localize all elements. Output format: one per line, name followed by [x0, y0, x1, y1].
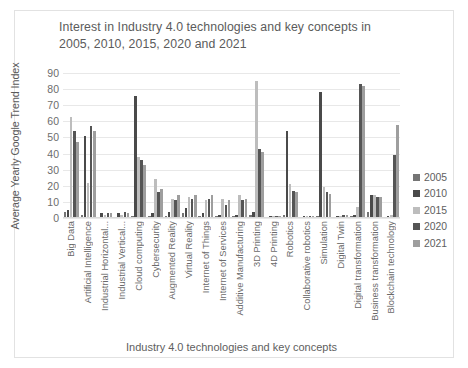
legend-item-label: 2015 [424, 205, 447, 216]
bar [228, 200, 231, 218]
bar-group [282, 73, 299, 218]
x-axis-tick-label: Internet of Things [198, 220, 215, 338]
x-axis-tick-label-text: Cloud computing [134, 221, 144, 291]
x-axis-tick-label-text: 3D Printing [252, 221, 262, 267]
legend-item-label: 2010 [424, 188, 447, 199]
legend: 20052010201520202021 [413, 169, 468, 252]
x-axis-tick-label: Virtual Reality [181, 220, 198, 338]
bar [379, 197, 382, 218]
bar-group [231, 73, 248, 218]
bar-group [333, 73, 350, 218]
bar [362, 86, 365, 218]
legend-item[interactable]: 2020 [413, 219, 468, 236]
bar-group [248, 73, 265, 218]
y-axis-tick-label: 50 [35, 131, 59, 143]
legend-swatch-icon [413, 174, 420, 181]
bar-group [383, 73, 400, 218]
x-axis-tick-label: Additive Manufacturing [231, 220, 248, 338]
x-axis-tick-label-text: Virtual Reality [184, 221, 194, 278]
bar-group [366, 73, 383, 218]
x-axis-tick-label: Cloud computing [130, 220, 147, 338]
legend-item-label: 2020 [424, 221, 447, 232]
y-axis-tick-label: 40 [35, 148, 59, 160]
legend-item[interactable]: 2005 [413, 169, 468, 186]
x-axis-tick-label: Industrial Horizontal... [97, 220, 114, 338]
x-axis-tick-label-text: Business transformation [370, 221, 380, 321]
x-axis-tick-label-text: Cybersecurity [151, 221, 161, 278]
bar-group [181, 73, 198, 218]
x-axis-tick-label-text: Industrial Vertical... [117, 221, 127, 300]
y-axis-tick-label: 30 [35, 164, 59, 176]
bar [396, 125, 399, 218]
y-axis-tick-label: 20 [35, 180, 59, 192]
x-axis-tick-label-text: Robotics [285, 221, 295, 257]
bar-group [130, 73, 147, 218]
bar [261, 152, 264, 218]
y-axis-title-text: Average Yearly Google Trend Index [9, 62, 21, 229]
bar-group [80, 73, 97, 218]
x-axis-line [63, 217, 400, 218]
bar [76, 142, 79, 218]
x-axis-tick-label: Big Data [63, 220, 80, 338]
x-axis-tick-label-text: Additive Manufacturing [235, 221, 245, 316]
x-axis-tick-label-text: Internet of Things [201, 221, 211, 293]
legend-item[interactable]: 2021 [413, 235, 468, 252]
x-axis-tick-label: Digital Twin [333, 220, 350, 338]
bar-groups [63, 73, 400, 218]
x-axis-tick-label: Blockchain technology [383, 220, 400, 338]
y-axis-tick-label: 90 [35, 67, 59, 79]
x-axis-tick-label-text: Digital Twin [336, 221, 346, 268]
legend-swatch-icon [413, 190, 420, 197]
x-axis-tick-label-text: Industrial Horizontal... [100, 221, 110, 311]
bar [177, 195, 180, 218]
bar [194, 195, 197, 218]
bar-group [114, 73, 131, 218]
y-axis-tick-label: 70 [35, 99, 59, 111]
x-axis-tick-labels: Big DataArtificial IntelligenceIndustria… [63, 220, 400, 338]
legend-item-label: 2021 [424, 238, 447, 249]
x-axis-tick-label: Industrial Vertical... [114, 220, 131, 338]
bar [295, 192, 298, 218]
bar [245, 199, 248, 218]
x-axis-tick-label: Cybersecurity [147, 220, 164, 338]
x-axis-tick-label: 4D Printing [265, 220, 282, 338]
x-axis-tick-label: Collaborative robotics [299, 220, 316, 338]
bar-group [316, 73, 333, 218]
x-axis-tick-label-text: Digital transformation [353, 221, 363, 309]
x-axis-tick-label-text: Internet of Services [218, 221, 228, 301]
bar-group [198, 73, 215, 218]
x-axis-tick-label-text: Big Data [66, 221, 76, 257]
x-axis-tick-label: Digital transformation [349, 220, 366, 338]
x-axis-tick-label: Robotics [282, 220, 299, 338]
x-axis-tick-label: Artificial Intelligence [80, 220, 97, 338]
bar [160, 189, 163, 218]
legend-swatch-icon [413, 207, 420, 214]
bar-group [349, 73, 366, 218]
gridline [63, 218, 400, 219]
legend-swatch-icon [413, 240, 420, 247]
bar [329, 194, 332, 218]
chart-container: Interest in Industry 4.0 technologies an… [14, 10, 454, 358]
x-axis-tick-label-text: Simulation [319, 221, 329, 264]
bar-group [63, 73, 80, 218]
bar-group [164, 73, 181, 218]
chart-title: Interest in Industry 4.0 technologies an… [59, 19, 389, 53]
legend-item[interactable]: 2010 [413, 186, 468, 203]
legend-item-label: 2005 [424, 172, 447, 183]
bar-group [97, 73, 114, 218]
y-axis-tick-label: 0 [35, 212, 59, 224]
bar [143, 165, 146, 218]
x-axis-tick-label-text: Collaborative robotics [302, 221, 312, 310]
legend-item[interactable]: 2015 [413, 202, 468, 219]
x-axis-tick-label: Simulation [316, 220, 333, 338]
y-axis-tick-label: 80 [35, 83, 59, 95]
y-axis-tick-label: 10 [35, 196, 59, 208]
x-axis-tick-label: 3D Printing [248, 220, 265, 338]
bar-group [265, 73, 282, 218]
bar-group [299, 73, 316, 218]
legend-swatch-icon [413, 223, 420, 230]
x-axis-title: Industry 4.0 technologies and key concep… [63, 341, 400, 353]
y-axis-title: Average Yearly Google Trend Index [7, 73, 23, 218]
x-axis-tick-label: Internet of Services [215, 220, 232, 338]
bar-group [215, 73, 232, 218]
